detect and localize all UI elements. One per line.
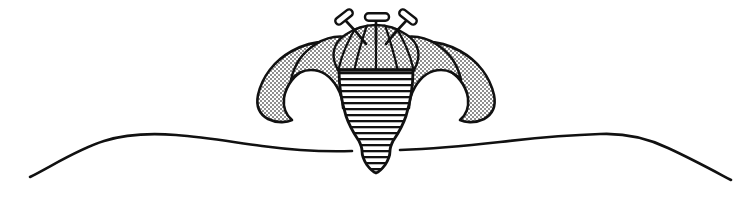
figure-canvas: Sessile crinoid-like organism anchored i… (0, 0, 752, 198)
center-tentacle-head-icon (365, 13, 389, 21)
organism-illustration: Sessile crinoid-like organism anchored i… (0, 0, 752, 198)
